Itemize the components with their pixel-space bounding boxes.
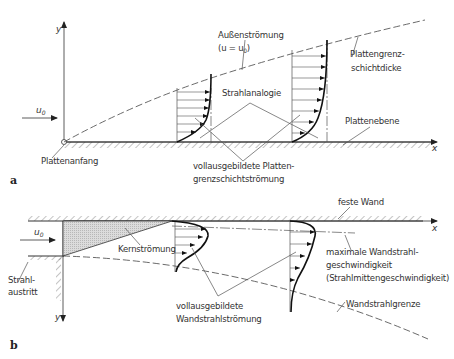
fixed-wall [28, 216, 423, 221]
label-kernstroemung: Kernströmung [118, 243, 176, 254]
label-grenzschichtdicke-1: Plattengrenz- [350, 48, 405, 59]
max-velocity-line [172, 226, 355, 233]
nozzle-wall [56, 256, 61, 301]
x-axis-label: x [431, 143, 438, 153]
y-axis-b-label: y [54, 312, 61, 322]
panel-b: x y u0 [8, 196, 449, 352]
label-wandstrahlgrenze: Wandstrahlgrenze [346, 298, 420, 309]
panel-a: x y u0 [10, 20, 438, 187]
panel-b-label: b [10, 339, 18, 352]
wall-jet-profile-1 [172, 221, 208, 272]
label-plattenanfang: Plattenanfang [41, 155, 98, 166]
u0-label: u0 [36, 105, 46, 116]
label-aussenstroemung: Außenströmung [218, 29, 284, 40]
label-max-2: geschwindigkeit [326, 259, 393, 270]
leader-voll-b [192, 248, 296, 296]
u0-label-b: u0 [34, 227, 44, 238]
wall-jet-profile-2 [290, 221, 315, 312]
label-max-3: (Strahlmittengeschwindigkeit) [326, 272, 449, 283]
label-strahlaustritt-2: austritt [8, 286, 38, 297]
label-voll-a-2: grenzschichtströmung [193, 173, 284, 184]
diagram-canvas: x y u0 [0, 0, 454, 359]
label-max-1: maximale Wandstrahl- [326, 246, 418, 257]
x-axis-b-label: x [431, 223, 438, 233]
y-axis-label: y [55, 24, 62, 34]
label-strahlanalogie: Strahlanalogie [222, 87, 281, 98]
label-grenzschichtdicke-2: schichtdicke [351, 62, 401, 73]
plate [64, 142, 434, 148]
label-voll-a-1: vollausgebildete Platten- [193, 160, 294, 171]
label-u-equals-u0: (u = u0) [218, 42, 250, 54]
label-feste-wand: feste Wand [338, 196, 384, 207]
label-strahlaustritt-1: Strahl- [8, 274, 35, 285]
panel-a-label: a [10, 174, 17, 187]
label-voll-b-1: vollausgebildete [176, 300, 243, 311]
velocity-profile-2 [292, 40, 327, 142]
label-voll-b-2: Wandstrahlströmung [176, 313, 262, 324]
label-plattenebene: Plattenebene [345, 115, 399, 126]
